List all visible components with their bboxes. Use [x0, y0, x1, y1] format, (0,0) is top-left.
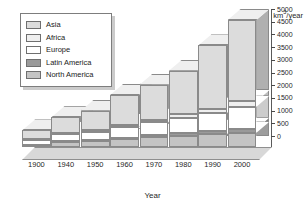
chart-root: km3/year 1900194019501960197019801990200…: [0, 0, 305, 202]
y-tick-label: 3000: [277, 56, 293, 63]
y-tick: [271, 98, 275, 99]
bar-segment[interactable]: [51, 134, 80, 141]
bar-segment-side: [256, 9, 269, 90]
bar-segment[interactable]: [110, 95, 139, 125]
bar-segment[interactable]: [198, 109, 227, 114]
y-tick-label: 3500: [277, 44, 293, 51]
bar-segment[interactable]: [198, 113, 227, 131]
y-tick: [271, 111, 275, 112]
y-tick-label: 0: [277, 133, 281, 140]
chart-floor: [22, 147, 272, 160]
legend-swatch-icon: [26, 46, 41, 54]
y-tick: [271, 73, 275, 74]
bar-segment[interactable]: [228, 133, 257, 147]
bar-segment[interactable]: [51, 133, 80, 135]
legend-swatch-icon: [26, 34, 41, 42]
legend-item-label: Europe: [46, 46, 70, 54]
y-tick-label: 2500: [277, 69, 293, 76]
legend-item-label: Asia: [46, 21, 61, 29]
bar-segment[interactable]: [81, 132, 110, 140]
y-axis-line: [271, 9, 272, 147]
bar-segment[interactable]: [140, 135, 169, 137]
bar-segment[interactable]: [22, 130, 51, 138]
y-tick-label: 2000: [277, 82, 293, 89]
bar-segment[interactable]: [51, 117, 80, 133]
legend-swatch-icon: [26, 21, 41, 29]
bar-segment[interactable]: [169, 114, 198, 118]
bar-segment-side: [256, 122, 269, 136]
y-tick: [271, 22, 275, 23]
bar-segment[interactable]: [140, 120, 169, 123]
y-tick: [271, 136, 275, 137]
bar-segment[interactable]: [81, 140, 110, 142]
y-tick-label: 4500: [277, 18, 293, 25]
bar-segment[interactable]: [81, 130, 110, 132]
bar-segment[interactable]: [228, 20, 257, 101]
legend-item-label: Latin America: [46, 59, 91, 67]
bar-segment[interactable]: [169, 133, 198, 136]
legend-item[interactable]: Asia: [26, 20, 107, 31]
bar-segment[interactable]: [228, 129, 257, 133]
legend-item-label: Africa: [46, 34, 65, 42]
chart-legend: AsiaAfricaEuropeLatin AmericaNorth Ameri…: [20, 13, 112, 87]
bar-segment[interactable]: [110, 139, 139, 147]
x-axis-title: Year: [0, 191, 305, 200]
bar-segment[interactable]: [140, 122, 169, 135]
legend-item-label: North America: [46, 71, 94, 79]
bar-segment[interactable]: [81, 111, 110, 130]
bar-segment[interactable]: [169, 136, 198, 147]
bar-segment-side: [256, 96, 269, 118]
bar-segment[interactable]: [81, 141, 110, 147]
bar-segment[interactable]: [110, 138, 139, 140]
bar-segment[interactable]: [140, 85, 169, 120]
y-tick-label: 1500: [277, 94, 293, 101]
bar-segment[interactable]: [169, 71, 198, 114]
bar-segment[interactable]: [22, 145, 51, 147]
legend-item[interactable]: Africa: [26, 32, 107, 43]
bar-segment[interactable]: [198, 45, 227, 108]
bar-segment[interactable]: [51, 141, 80, 143]
bar-segment[interactable]: [198, 131, 227, 134]
legend-item[interactable]: North America: [26, 70, 107, 81]
y-tick: [271, 123, 275, 124]
bar-segment[interactable]: [228, 101, 257, 107]
bar-segment-side: [256, 118, 269, 122]
bar-segment[interactable]: [198, 134, 227, 147]
legend-swatch-icon: [26, 59, 41, 67]
y-tick: [271, 60, 275, 61]
bar-segment[interactable]: [140, 137, 169, 147]
y-tick: [271, 9, 275, 10]
legend-item[interactable]: Europe: [26, 45, 107, 56]
bar-segment[interactable]: [22, 139, 51, 141]
y-tick-label: 1000: [277, 107, 293, 114]
y-tick-label: 500: [277, 120, 289, 127]
y-tick: [271, 34, 275, 35]
y-tick-label: 4000: [277, 31, 293, 38]
bar-segment[interactable]: [110, 125, 139, 127]
y-tick: [271, 85, 275, 86]
x-tick-label: 2000: [225, 161, 260, 169]
bar-segment[interactable]: [228, 107, 257, 129]
y-tick: [271, 47, 275, 48]
bar-segment[interactable]: [110, 127, 139, 138]
y-tick-label: 5000: [277, 6, 293, 13]
bar-segment-side: [256, 90, 269, 96]
legend-item[interactable]: Latin America: [26, 57, 107, 68]
legend-swatch-icon: [26, 71, 41, 79]
bar-segment[interactable]: [169, 118, 198, 133]
